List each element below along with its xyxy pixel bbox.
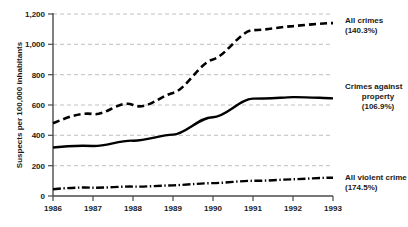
x-tick-label-1991: 1991 bbox=[244, 204, 262, 213]
series-all-crimes-line bbox=[53, 23, 333, 123]
x-tick-label-1987: 1987 bbox=[84, 204, 102, 213]
series-all-violent-crime-line bbox=[53, 178, 333, 189]
y-tick-label-400: 400 bbox=[32, 131, 46, 140]
x-tick-label-1986: 1986 bbox=[44, 204, 62, 213]
label-all-crimes-growth: (140.3%) bbox=[345, 26, 378, 35]
y-tick-label-600: 600 bbox=[32, 101, 46, 110]
y-tick-label-1000: 1,000 bbox=[25, 40, 46, 49]
y-tick-label-0: 0 bbox=[41, 192, 46, 201]
label-violent-growth: (174.5%) bbox=[345, 183, 378, 192]
label-violent-name: All violent crime bbox=[345, 173, 407, 182]
label-all-crimes-name: All crimes bbox=[345, 16, 384, 25]
y-axis-tick-labels: 1,200 1,000 800 600 400 200 0 bbox=[25, 10, 46, 201]
series-group bbox=[53, 23, 333, 189]
x-tick-label-1992: 1992 bbox=[284, 204, 302, 213]
x-tick-label-1988: 1988 bbox=[124, 204, 142, 213]
x-axis-tick-labels: 1986 1987 1988 1989 1990 1991 1992 1993 bbox=[44, 204, 342, 213]
axis-group bbox=[48, 13, 333, 201]
series-labels: All crimes (140.3%) Crimes against prope… bbox=[345, 16, 407, 192]
y-tick-label-200: 200 bbox=[32, 162, 46, 171]
label-property-growth: (106.9%) bbox=[362, 102, 395, 111]
label-property-name-line1: Crimes against bbox=[345, 82, 403, 91]
label-property-name-line2: property bbox=[362, 92, 395, 101]
y-axis-title: Suspects per 100,000 inhabitants bbox=[15, 41, 24, 168]
y-tick-label-1200: 1,200 bbox=[25, 10, 46, 19]
chart-canvas: 1,200 1,000 800 600 400 200 0 1986 1987 … bbox=[0, 0, 408, 227]
x-tick-label-1990: 1990 bbox=[204, 204, 222, 213]
x-tick-label-1989: 1989 bbox=[164, 204, 182, 213]
line-chart: 1,200 1,000 800 600 400 200 0 1986 1987 … bbox=[0, 0, 408, 227]
x-tick-label-1993: 1993 bbox=[324, 204, 342, 213]
y-tick-label-800: 800 bbox=[32, 71, 46, 80]
gridlines bbox=[53, 14, 333, 166]
